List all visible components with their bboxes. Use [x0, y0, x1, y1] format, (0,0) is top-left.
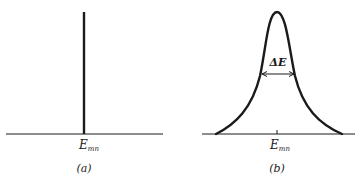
caption-b: (b) [269, 162, 285, 175]
panel-b: ΔE Emn (b) [202, 12, 355, 175]
width-arrow [262, 72, 294, 77]
energy-label-b: Emn [269, 138, 290, 153]
figure: Emn (a) ΔE Emn (b) [0, 0, 358, 181]
width-label: ΔE [269, 56, 288, 69]
energy-label-a: Emn [78, 138, 99, 153]
panel-a: Emn (a) [6, 12, 163, 175]
line-profile-curve [216, 12, 342, 134]
caption-a: (a) [76, 162, 91, 175]
